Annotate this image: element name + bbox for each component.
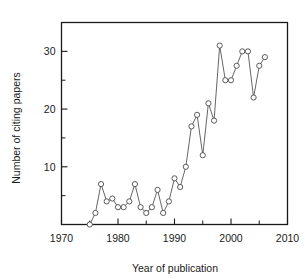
data-point	[166, 199, 171, 204]
data-point	[251, 95, 256, 100]
data-point	[228, 78, 233, 83]
data-series-line	[90, 46, 265, 225]
x-axis-title: Year of publication	[132, 262, 218, 274]
x-axis-tick-labels: 19701980199020002010	[50, 232, 300, 244]
data-point	[93, 210, 98, 215]
data-point	[144, 210, 149, 215]
data-point	[172, 176, 177, 181]
x-tick-label: 1980	[106, 232, 130, 244]
data-point	[183, 164, 188, 169]
data-point	[217, 43, 222, 48]
data-point	[223, 78, 228, 83]
data-point	[149, 205, 154, 210]
data-point	[115, 205, 120, 210]
data-point	[206, 101, 211, 106]
data-point	[161, 210, 166, 215]
data-point	[189, 124, 194, 129]
data-point	[98, 182, 103, 187]
data-point	[262, 55, 267, 60]
y-axis-tick-labels: 102030	[44, 45, 56, 172]
data-point	[211, 118, 216, 123]
citing-papers-line-chart: 102030 19701980199020002010 Number of ci…	[0, 0, 305, 279]
data-point	[138, 205, 143, 210]
chart-figure: 102030 19701980199020002010 Number of ci…	[0, 0, 305, 279]
data-point	[178, 184, 183, 189]
data-point	[240, 49, 245, 54]
data-point	[200, 153, 205, 158]
x-tick-label: 1990	[163, 232, 187, 244]
y-tick-label: 30	[44, 45, 56, 57]
y-axis-ticks	[62, 23, 68, 196]
data-point	[127, 199, 132, 204]
data-series-markers	[87, 43, 267, 227]
data-point	[132, 182, 137, 187]
x-tick-label: 2000	[219, 232, 243, 244]
x-tick-label: 2010	[276, 232, 300, 244]
data-point	[155, 187, 160, 192]
x-tick-label: 1970	[50, 232, 74, 244]
data-point	[245, 49, 250, 54]
data-point	[257, 63, 262, 68]
data-point	[195, 112, 200, 117]
x-axis-ticks	[62, 219, 288, 225]
y-axis-title: Number of citing papers	[10, 72, 22, 183]
data-point	[104, 199, 109, 204]
data-point	[110, 196, 115, 201]
data-point	[121, 205, 126, 210]
y-tick-label: 10	[44, 161, 56, 173]
y-tick-label: 20	[44, 103, 56, 115]
data-point	[234, 63, 239, 68]
data-point	[87, 222, 92, 227]
plot-frame	[62, 23, 288, 225]
